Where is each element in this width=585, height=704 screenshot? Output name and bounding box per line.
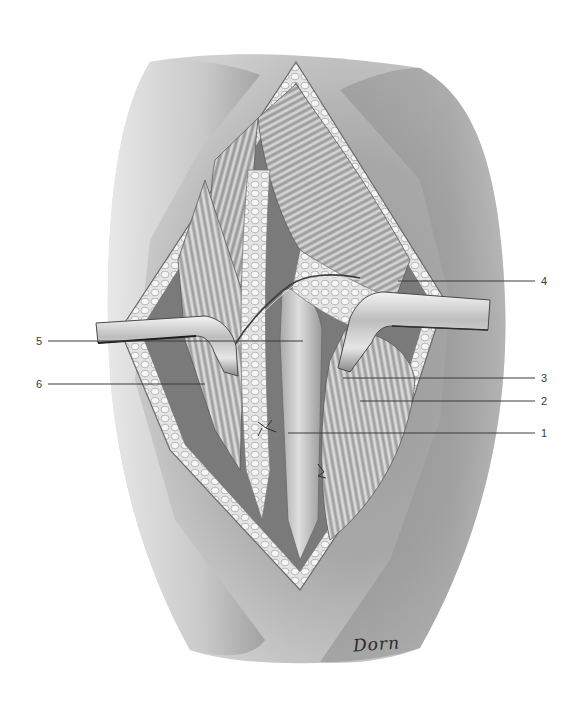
callout-label-3: 3	[541, 372, 547, 384]
callout-label-2: 2	[541, 395, 547, 407]
surgical-illustration	[0, 0, 585, 704]
callout-label-1: 1	[541, 427, 547, 439]
callout-label-5: 5	[36, 335, 42, 347]
callout-label-6: 6	[36, 378, 42, 390]
artist-signature: Dorn	[352, 632, 400, 655]
callout-label-4: 4	[541, 275, 547, 287]
